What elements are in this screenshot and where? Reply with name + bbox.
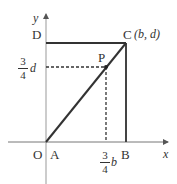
y-marker-var: d <box>30 62 36 74</box>
y-marker-denominator: 4 <box>20 69 26 81</box>
x-marker-var: b <box>111 156 117 168</box>
x-marker-fraction: 3 4 <box>100 150 110 175</box>
label-C-coords: (b, d) <box>134 28 160 40</box>
label-D: D <box>32 28 41 41</box>
label-B: B <box>121 148 130 161</box>
x-marker-denominator: 4 <box>102 163 108 175</box>
label-O: O <box>33 148 42 161</box>
label-C: C <box>123 28 132 41</box>
x-axis-label: x <box>163 148 168 160</box>
y-marker-fraction: 3 4 <box>18 56 28 81</box>
x-marker-numerator: 3 <box>102 149 108 161</box>
label-P: P <box>98 51 105 64</box>
y-marker-numerator: 3 <box>20 55 26 67</box>
segment-AC <box>46 43 126 142</box>
y-axis-label: y <box>33 12 38 24</box>
label-A: A <box>50 148 59 161</box>
point-P <box>104 65 108 69</box>
